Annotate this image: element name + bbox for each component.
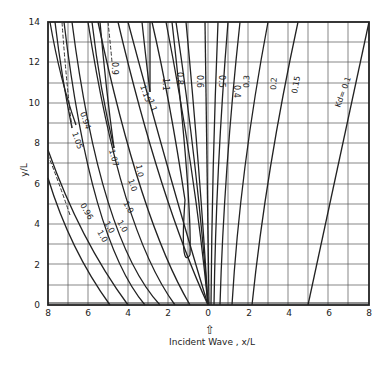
- label-kd-0.15: 0.15: [290, 75, 302, 94]
- y-tick-4: 4: [34, 219, 40, 229]
- label-kd-1.05: 1.05: [70, 131, 85, 151]
- x-axis-label: Incident Wave , x/L: [169, 337, 255, 347]
- curves: [48, 22, 369, 305]
- x-tick-2: 2: [246, 308, 252, 318]
- x-axis: 8 6 4 2 0 2 4 6 8 ⇧ Incident Wave , x/L: [45, 308, 372, 347]
- y-tick-8: 8: [34, 138, 40, 148]
- label-kd-0.6: 0.6: [195, 75, 204, 88]
- label-kd-0.4: 0.4: [232, 85, 241, 98]
- label-kd-1.0c: 1.0: [121, 200, 135, 216]
- x-tick-8: 8: [366, 308, 372, 318]
- y-tick-6: 6: [34, 179, 40, 189]
- x-tick-4: 4: [286, 308, 292, 318]
- y-tick-2: 2: [34, 260, 40, 270]
- x-tick-neg4: 4: [125, 308, 131, 318]
- curve-kd-0.2: [232, 22, 268, 305]
- incident-wave-arrow-icon: ⇧: [205, 323, 215, 337]
- label-kd-1.1a: 1.1: [161, 78, 170, 91]
- label-kd-1.07: 1.07: [107, 148, 120, 168]
- label-kd-0.2: 0.2: [269, 77, 279, 90]
- y-tick-12: 12: [29, 57, 40, 67]
- y-tick-14: 14: [29, 17, 41, 27]
- x-tick-neg8: 8: [45, 308, 51, 318]
- y-tick-10: 10: [29, 98, 41, 108]
- curve-kd-0.3: [220, 22, 240, 305]
- label-kd-0.96: 0.96: [78, 202, 95, 222]
- x-tick-0: 0: [205, 308, 211, 318]
- y-tick-0: 0: [34, 300, 40, 310]
- y-axis: 0 2 4 6 8 10 12 14 y/L: [19, 17, 40, 310]
- curve-kd-1.15a: [142, 22, 150, 92]
- y-axis-label: y/L: [19, 163, 29, 176]
- diffraction-chart: Kd= 0.1 0.15 0.2 0.3 0.4 0.5 0.6 0.8 1.1…: [0, 0, 389, 365]
- label-kd-1.0a: 1.0: [134, 164, 145, 178]
- curve-kd-0.15: [252, 22, 298, 305]
- curve-kd-0.1: [308, 22, 369, 305]
- x-tick-neg6: 6: [85, 308, 91, 318]
- curve-kd-1.07a: [92, 22, 114, 148]
- curve-kd-0.96-dashed: [48, 155, 70, 215]
- x-tick-6: 6: [326, 308, 332, 318]
- label-kd-0.1: Kd= 0.1: [333, 75, 353, 108]
- label-kd-0.8: 0.8: [175, 72, 184, 85]
- label-kd-0.9: 0.9: [110, 62, 119, 75]
- label-kd-0.5: 0.5: [217, 75, 226, 88]
- label-kd-1.0d: 1.0: [115, 219, 129, 235]
- curve-kd-1.0b: [166, 22, 208, 305]
- label-kd-0.3: 0.3: [242, 75, 251, 88]
- x-tick-neg2: 2: [165, 308, 171, 318]
